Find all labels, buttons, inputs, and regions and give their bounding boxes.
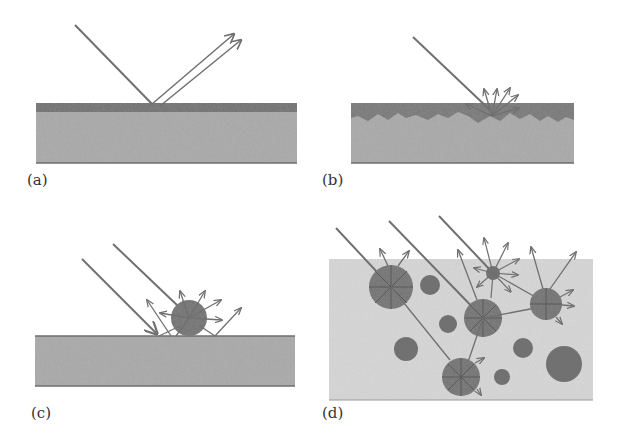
incident-ray: [75, 25, 152, 104]
panel-d: [329, 216, 593, 400]
panel-label-a: (a): [27, 173, 48, 188]
smooth-surface-layer: [36, 103, 297, 112]
panel-label-d: (d): [322, 406, 343, 421]
panel-label-b: (b): [322, 173, 343, 188]
panel-c: [35, 244, 295, 386]
substrate-slab: [35, 336, 295, 386]
light-scattering-figure: [0, 0, 618, 448]
panel-a: [36, 25, 297, 163]
panel-label-c: (c): [31, 406, 51, 421]
reflected-ray-arrow: [152, 34, 241, 106]
panel-b: [351, 37, 574, 163]
incident-ray: [113, 244, 178, 306]
incident-ray: [413, 37, 490, 110]
incident-ray: [82, 259, 157, 334]
